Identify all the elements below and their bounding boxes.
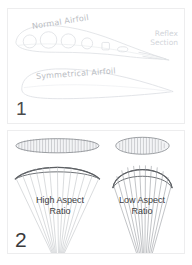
figure-sheet: Normal Airfoil Reflex Section Symmetrica… xyxy=(0,0,192,265)
panel-number-1: 1 xyxy=(16,99,27,118)
label-high-aspect-ratio: High Aspect Ratio xyxy=(18,195,102,217)
label-reflex-section: Reflex Section xyxy=(134,29,178,48)
panel-number-2: 2 xyxy=(15,229,27,250)
label-low-aspect-line-1: Low Aspect xyxy=(119,195,165,205)
low-aspect-ratio-planform xyxy=(116,137,169,154)
panel-aspect-ratio-comparison: High Aspect Ratio Low Aspect Ratio 2 xyxy=(7,130,185,254)
high-aspect-ratio-planform xyxy=(16,139,99,153)
label-high-aspect-line-2: Ratio xyxy=(49,206,70,216)
label-low-aspect-line-2: Ratio xyxy=(131,206,152,216)
airfoil-cell-group xyxy=(23,32,128,52)
label-high-aspect-line-1: High Aspect xyxy=(36,195,84,205)
aspect-ratio-artwork xyxy=(8,131,184,253)
figure-caption xyxy=(9,255,183,263)
label-low-aspect-ratio: Low Aspect Ratio xyxy=(102,195,182,217)
symmetrical-airfoil-chord xyxy=(24,85,172,92)
panel-airfoil-sections: Normal Airfoil Reflex Section Symmetrica… xyxy=(7,8,185,124)
